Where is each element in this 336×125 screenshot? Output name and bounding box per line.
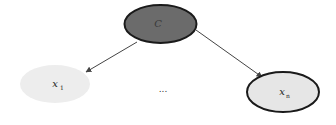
node-c-label: C [154,18,162,29]
node-c: C [125,5,197,43]
edge-c-to-xn [196,30,262,77]
node-x1-subscript: 1 [60,84,64,91]
node-x1: x 1 [20,65,90,103]
diagram-canvas: C x 1 ... x n [0,0,336,125]
edge-c-to-x1 [86,42,137,72]
node-x1-label: x [52,78,58,89]
node-xn: x n [247,72,319,112]
ellipsis: ... [159,84,168,94]
node-xn-subscript: n [286,92,290,99]
node-xn-label: x [279,86,285,97]
